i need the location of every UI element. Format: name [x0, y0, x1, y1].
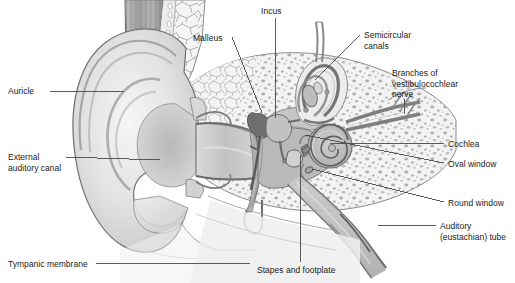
label-stapes-and-footplate: Stapes and footplate	[257, 265, 335, 276]
label-round-window: Round window	[448, 198, 504, 209]
label-branches-of-vestibulocochlear-nerve: Branches of vestibulocochlear nerve	[392, 68, 458, 100]
ear-diagram-canvas	[0, 0, 515, 283]
label-auricle: Auricle	[8, 86, 34, 97]
ear-anatomy-figure: AuricleExternal auditory canalTympanic m…	[0, 0, 515, 283]
label-external-auditory-canal: External auditory canal	[8, 152, 61, 173]
label-malleus: Malleus	[193, 33, 222, 44]
label-auditory-eustachian-tube: Auditory (eustachian) tube	[440, 221, 506, 242]
label-semicircular-canals: Semicircular canals	[364, 30, 411, 51]
label-cochlea: Cochlea	[448, 139, 479, 150]
label-oval-window: Oval window	[448, 159, 496, 170]
label-incus: Incus	[261, 6, 281, 17]
label-tympanic-membrane: Tympanic membrane	[8, 259, 88, 270]
